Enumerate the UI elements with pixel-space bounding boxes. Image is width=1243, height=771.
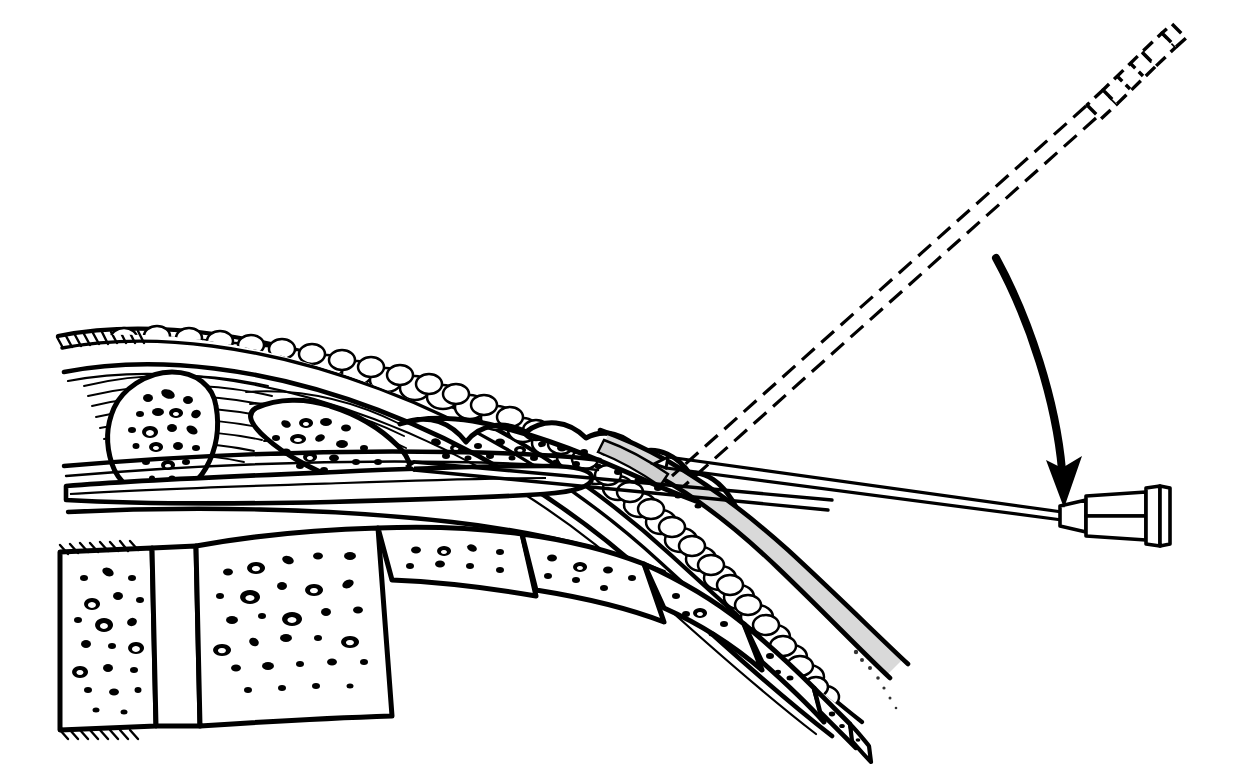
vertebral-bodies-group bbox=[60, 528, 392, 739]
medical-illustration-figure: Caudal epidural needle insertion techniq… bbox=[0, 0, 1243, 771]
intervertebral-disc bbox=[152, 546, 200, 726]
sagittal-spine-illustration: Caudal epidural needle insertion techniq… bbox=[0, 0, 1243, 771]
vertebral-body-l5 bbox=[196, 528, 392, 726]
